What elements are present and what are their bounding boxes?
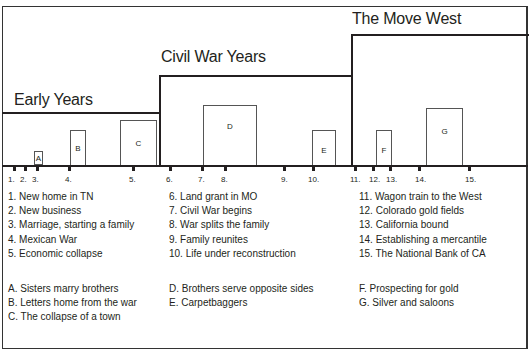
story-box-f: F — [376, 130, 392, 165]
tick-7 — [201, 166, 204, 171]
tick-label-14: 14. — [415, 175, 426, 184]
tick-10 — [312, 166, 315, 171]
legend-event-11: 11. Wagon train to the West — [359, 190, 487, 204]
legend-event-15: 15. The National Bank of CA — [359, 247, 487, 261]
legend-event-4: 4. Mexican War — [8, 233, 134, 247]
legend-event-14: 14. Establishing a mercantile — [359, 233, 487, 247]
tick-label-4: 4. — [65, 175, 72, 184]
legend-stories-col-3: F. Prospecting for gold G. Silver and sa… — [359, 282, 459, 310]
legend-event-3: 3. Marriage, starting a family — [8, 218, 134, 232]
tick-label-11: 11. — [350, 175, 361, 184]
legend-event-6: 6. Land grant in MO — [169, 190, 296, 204]
legend-story-c: C. The collapse of a town — [8, 310, 137, 324]
tick-label-12: 12. — [369, 175, 380, 184]
legend-stories-col-2: D. Brothers serve opposite sides E. Carp… — [169, 282, 314, 310]
legend-event-10: 10. Life under reconstruction — [169, 247, 296, 261]
legend-event-2: 2. New business — [8, 204, 134, 218]
legend-story-e: E. Carpetbaggers — [169, 296, 314, 310]
legend-event-8: 8. War splits the family — [169, 218, 296, 232]
legend-events-col-1: 1. New home in TN 2. New business 3. Mar… — [8, 190, 134, 261]
tick-label-5: 5. — [129, 175, 136, 184]
tick-2 — [24, 166, 27, 171]
legend-events-col-2: 6. Land grant in MO 7. Civil War begins … — [169, 190, 296, 261]
story-box-g: G — [426, 108, 463, 165]
legend-story-a: A. Sisters marry brothers — [8, 282, 137, 296]
tick-3 — [36, 166, 39, 171]
tick-11 — [354, 166, 357, 171]
legend-story-b: B. Letters home from the war — [8, 296, 137, 310]
tick-4 — [68, 166, 71, 171]
era-label-move-west: The Move West — [352, 10, 461, 28]
legend-event-1: 1. New home in TN — [8, 190, 134, 204]
era-label-early-years: Early Years — [14, 91, 93, 109]
timeline-baseline — [2, 165, 528, 167]
tick-label-10: 10. — [308, 175, 319, 184]
story-box-c: C — [120, 120, 157, 165]
tick-label-7: 7. — [198, 175, 205, 184]
tick-5 — [132, 166, 135, 171]
tick-8 — [224, 166, 227, 171]
story-box-d: D — [203, 105, 257, 165]
tick-1 — [13, 166, 16, 171]
legend-story-g: G. Silver and saloons — [359, 296, 459, 310]
tick-label-2: 2. — [20, 175, 27, 184]
tick-label-3: 3. — [32, 175, 39, 184]
story-box-e: E — [312, 130, 336, 165]
tick-15 — [468, 166, 471, 171]
tick-label-15: 15. — [465, 175, 476, 184]
tick-12 — [372, 166, 375, 171]
legend-event-5: 5. Economic collapse — [8, 247, 134, 261]
legend-stories-col-1: A. Sisters marry brothers B. Letters hom… — [8, 282, 137, 325]
story-box-b: B — [70, 130, 86, 165]
era-divider-1 — [159, 75, 161, 166]
legend-event-9: 9. Family reunites — [169, 233, 296, 247]
legend-event-12: 12. Colorado gold fields — [359, 204, 487, 218]
tick-label-6: 6. — [166, 175, 173, 184]
story-box-a: A — [34, 151, 43, 165]
tick-label-9: 9. — [281, 175, 288, 184]
legend-story-f: F. Prospecting for gold — [359, 282, 459, 296]
legend-events-col-3: 11. Wagon train to the West 12. Colorado… — [359, 190, 487, 261]
tick-label-8: 8. — [221, 175, 228, 184]
tick-14 — [418, 166, 421, 171]
era-divider-2 — [351, 34, 353, 166]
tick-9 — [283, 166, 286, 171]
tick-label-1: 1. — [8, 175, 15, 184]
tick-6 — [169, 166, 172, 171]
legend-event-13: 13. California bound — [359, 218, 487, 232]
tick-label-13: 13. — [386, 175, 397, 184]
legend-event-7: 7. Civil War begins — [169, 204, 296, 218]
legend-story-d: D. Brothers serve opposite sides — [169, 282, 314, 296]
era-label-civil-war-years: Civil War Years — [161, 48, 266, 66]
tick-13 — [389, 166, 392, 171]
